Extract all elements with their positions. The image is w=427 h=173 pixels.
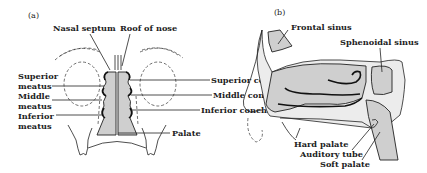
panel-b: (b) Frontal sinus Sphenoidal sinus Har bbox=[243, 8, 419, 169]
orbit-roof-right-inner bbox=[142, 48, 178, 55]
label-superior-meatus-2: meatus bbox=[18, 81, 52, 91]
label-sphenoidal-sinus: Sphenoidal sinus bbox=[340, 37, 419, 47]
label-superior-meatus-1: Superior bbox=[18, 71, 59, 81]
label-nasal-septum: Nasal septum bbox=[53, 23, 116, 33]
leader-nasal-septum bbox=[90, 34, 110, 70]
label-inferior-meatus-1: Inferior bbox=[18, 111, 54, 121]
panel-b-label: (b) bbox=[274, 8, 285, 17]
right-tooth bbox=[142, 125, 166, 155]
orbit-roof-right bbox=[140, 48, 183, 58]
upper-lip-dash bbox=[248, 118, 263, 142]
label-palate: Palate bbox=[172, 128, 201, 138]
right-nasal-wall bbox=[118, 72, 137, 135]
label-inferior-concha: Inferior concha bbox=[201, 105, 273, 115]
label-soft-palate: Soft palate bbox=[320, 159, 370, 169]
palate-curve bbox=[88, 142, 146, 149]
panel-a: (a) Nasal septum bbox=[18, 11, 287, 155]
orbit-left bbox=[64, 62, 100, 106]
label-frontal-sinus: Frontal sinus bbox=[291, 22, 352, 32]
septum-top bbox=[115, 55, 121, 70]
alveolar-line bbox=[282, 122, 296, 140]
right-side-dash bbox=[136, 96, 138, 125]
label-roof-of-nose: Roof of nose bbox=[120, 23, 177, 33]
orbit-right bbox=[140, 62, 176, 106]
panel-a-label: (a) bbox=[28, 11, 39, 20]
label-auditory-tube: Auditory tube bbox=[299, 149, 363, 159]
leader-hard-palate bbox=[296, 128, 300, 138]
label-inferior-meatus-2: meatus bbox=[18, 121, 52, 131]
label-middle-meatus-1: Middle bbox=[18, 91, 50, 101]
label-middle-meatus-2: meatus bbox=[18, 101, 52, 111]
leader-roof-of-nose bbox=[122, 34, 130, 66]
left-tooth bbox=[68, 125, 92, 155]
orbit-roof-left bbox=[55, 48, 100, 60]
label-hard-palate: Hard palate bbox=[294, 139, 348, 149]
nasal-anatomy-diagram: (a) Nasal septum bbox=[0, 0, 427, 173]
